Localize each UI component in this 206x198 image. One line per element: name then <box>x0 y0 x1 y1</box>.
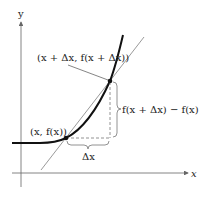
x-axis-label: x <box>191 168 197 179</box>
point-x-plus-dx <box>108 79 113 84</box>
label-delta-y: f(x + Δx) − f(x) <box>122 104 199 115</box>
leader-line <box>68 65 108 80</box>
label-delta-x: Δx <box>82 151 95 162</box>
label-point-x-plus-dx: (x + Δx, f(x + Δx)) <box>37 52 129 63</box>
delta-y-brace <box>113 82 121 137</box>
label-point-x: (x, f(x)) <box>30 126 67 137</box>
delta-x-brace <box>67 141 109 149</box>
y-axis-label: y <box>17 8 24 19</box>
secant-line-diagram: x y (x + Δx, f(x + Δx)) (x, f(x)) f(x + … <box>0 0 206 198</box>
